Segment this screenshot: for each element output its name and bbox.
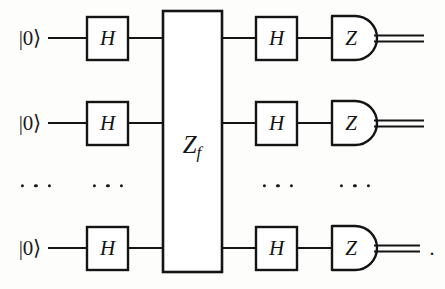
hadamard-label-row1-first: H: [100, 111, 115, 136]
hadamard-label-row0-second: H: [269, 26, 284, 51]
oracle-label-zf: Zf: [183, 131, 202, 163]
hadamard-label-row1-second: H: [269, 111, 284, 136]
input-state-label-row1: |0⟩: [19, 111, 42, 136]
trailing-period: .: [430, 237, 435, 260]
hadamard-label-row2-second: H: [269, 236, 284, 261]
hadamard-1-ellipsis: [93, 184, 123, 187]
input-ellipsis: [21, 184, 51, 187]
quantum-circuit-diagram: [0, 0, 445, 289]
measure-ellipsis: [340, 184, 370, 187]
oracle-label-main: Z: [183, 131, 197, 158]
hadamard-2-ellipsis: [263, 184, 293, 187]
input-state-label-row2: |0⟩: [19, 236, 42, 261]
measurement-label-row0: Z: [345, 26, 357, 51]
oracle-label-subscript: f: [197, 143, 202, 162]
input-state-label-row0: |0⟩: [19, 26, 42, 51]
hadamard-label-row0-first: H: [100, 26, 115, 51]
hadamard-label-row2-first: H: [100, 236, 115, 261]
measurement-label-row1: Z: [345, 111, 357, 136]
measurement-label-row2: Z: [345, 236, 357, 261]
